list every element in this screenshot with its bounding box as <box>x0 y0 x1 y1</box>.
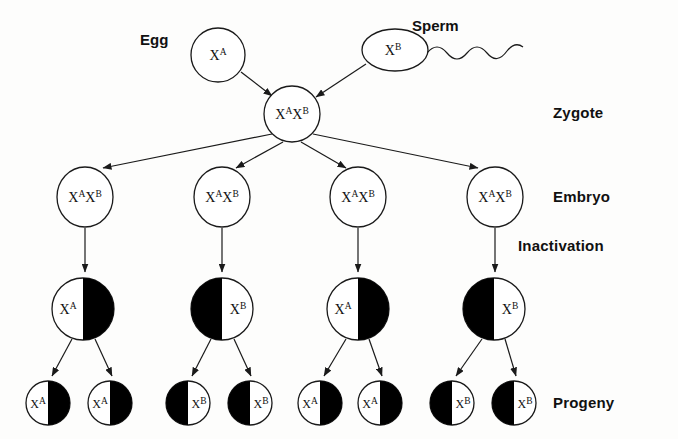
embryo-cell-1[interactable]: XAXB <box>57 167 113 227</box>
inactivation-cell-3-inactive-half <box>358 278 389 340</box>
arrow-cell-4-to-progeny-7 <box>456 339 482 376</box>
inactivation-cell-1[interactable]: XA <box>52 278 114 340</box>
arrow-cell-1-to-progeny-1 <box>52 339 72 376</box>
embryo-cell-4[interactable]: XAXB <box>467 167 523 227</box>
progeny-cell-8-inactive-half <box>492 381 514 425</box>
progeny-cell-2-inactive-half <box>110 381 132 425</box>
progeny-cell-2[interactable]: XA <box>88 381 132 425</box>
progeny-cell-4-inactive-half <box>228 381 250 425</box>
progeny-cell-8[interactable]: XB <box>492 381 536 425</box>
inactivation-cell-4[interactable]: XB <box>463 278 525 340</box>
progeny-cell-1-inactive-half <box>48 381 70 425</box>
progeny-cell-5[interactable]: XA <box>298 381 342 425</box>
arrow-cell-3-to-progeny-5 <box>324 339 346 376</box>
arrow-cell-1-to-progeny-2 <box>95 339 112 376</box>
sperm-cell[interactable]: XB <box>362 29 428 71</box>
inactivation-cell-2[interactable]: XB <box>191 278 253 340</box>
arrow-cell-2-to-progeny-4 <box>234 339 251 376</box>
progeny-cell-3-inactive-half <box>166 381 188 425</box>
arrow-cell-2-to-progeny-3 <box>192 339 211 376</box>
egg-label: Egg <box>140 31 168 48</box>
arrow-zygote-to-embryo-2 <box>236 142 283 168</box>
progeny-row: XA XA XB XB <box>26 381 536 425</box>
inactivation-row: XA XB XA XB <box>52 278 525 340</box>
embryo-cell-3[interactable]: XAXB <box>330 167 386 227</box>
stage-label-zygote: Zygote <box>553 104 603 121</box>
progeny-cell-1[interactable]: XA <box>26 381 70 425</box>
embryo-cell-2[interactable]: XAXB <box>194 167 250 227</box>
inactivation-arrows <box>85 228 495 272</box>
progeny-cell-7-inactive-half <box>430 381 452 425</box>
egg-cell[interactable]: XA <box>191 28 245 82</box>
arrow-cell-4-to-progeny-8 <box>505 339 516 376</box>
stage-label-embryo: Embryo <box>553 188 610 205</box>
stage-label-inactivation: Inactivation <box>518 237 604 254</box>
inactivation-cell-3[interactable]: XA <box>327 278 389 340</box>
progeny-cell-6[interactable]: XA <box>358 381 402 425</box>
inactivation-cell-2-inactive-half <box>191 278 222 340</box>
progeny-cell-5-inactive-half <box>320 381 342 425</box>
arrow-cell-3-to-progeny-6 <box>369 339 382 376</box>
inactivation-cell-1-inactive-half <box>83 278 114 340</box>
progeny-cell-6-inactive-half <box>380 381 402 425</box>
x-inactivation-diagram: XA XB XAXB XAXB <box>0 0 678 439</box>
progeny-cell-7[interactable]: XB <box>430 381 474 425</box>
progeny-arrows <box>52 339 516 376</box>
inactivation-cell-4-inactive-half <box>463 278 494 340</box>
embryo-row: XAXB XAXB XAXB XAXB <box>57 167 523 227</box>
arrow-sperm-to-zygote <box>316 64 366 97</box>
arrow-zygote-to-embryo-3 <box>301 142 346 168</box>
progeny-cell-4[interactable]: XB <box>228 381 272 425</box>
zygote-cell[interactable]: XAXB <box>264 86 320 142</box>
sperm-tail-icon <box>427 45 523 59</box>
arrow-zygote-to-embryo-1 <box>103 134 272 168</box>
arrow-egg-to-zygote <box>241 72 272 96</box>
stage-label-progeny: Progeny <box>553 394 614 411</box>
diagram-canvas: XA XB XAXB XAXB <box>0 0 678 439</box>
sperm-label: Sperm <box>412 17 459 34</box>
progeny-cell-3[interactable]: XB <box>166 381 210 425</box>
